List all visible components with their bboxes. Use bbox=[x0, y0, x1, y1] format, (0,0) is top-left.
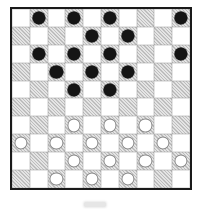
board-square-r9c3[interactable] bbox=[48, 152, 66, 170]
board-square-r6c3[interactable] bbox=[48, 98, 66, 116]
board-square-r2c3[interactable] bbox=[48, 27, 66, 45]
white-piece[interactable] bbox=[68, 119, 81, 132]
board-square-r5c10[interactable] bbox=[172, 81, 190, 99]
white-piece[interactable] bbox=[157, 137, 170, 150]
board-square-r8c1[interactable] bbox=[12, 134, 30, 152]
board-square-r7c8[interactable] bbox=[137, 116, 155, 134]
board-square-r3c2[interactable] bbox=[30, 45, 48, 63]
board-square-r3c9[interactable] bbox=[154, 45, 172, 63]
board-square-r6c5[interactable] bbox=[83, 98, 101, 116]
board-square-r9c1[interactable] bbox=[12, 152, 30, 170]
board-square-r1c2[interactable] bbox=[30, 9, 48, 27]
board-square-r3c10[interactable] bbox=[172, 45, 190, 63]
board-square-r5c2[interactable] bbox=[30, 81, 48, 99]
board-square-r2c1[interactable] bbox=[12, 27, 30, 45]
white-piece[interactable] bbox=[86, 137, 99, 150]
board-square-r3c6[interactable] bbox=[101, 45, 119, 63]
white-piece[interactable] bbox=[139, 155, 152, 168]
white-piece[interactable] bbox=[86, 172, 99, 185]
board-square-r6c8[interactable] bbox=[137, 98, 155, 116]
board-square-r2c8[interactable] bbox=[137, 27, 155, 45]
board-square-r7c3[interactable] bbox=[48, 116, 66, 134]
board-square-r3c4[interactable] bbox=[65, 45, 83, 63]
board-square-r5c1[interactable] bbox=[12, 81, 30, 99]
board-square-r4c5[interactable] bbox=[83, 63, 101, 81]
board-square-r4c10[interactable] bbox=[172, 63, 190, 81]
board-square-r6c6[interactable] bbox=[101, 98, 119, 116]
board-square-r1c5[interactable] bbox=[83, 9, 101, 27]
board-square-r6c1[interactable] bbox=[12, 98, 30, 116]
board-square-r8c2[interactable] bbox=[30, 134, 48, 152]
black-piece[interactable] bbox=[68, 11, 81, 24]
board-square-r3c1[interactable] bbox=[12, 45, 30, 63]
white-piece[interactable] bbox=[14, 137, 27, 150]
board-square-r1c8[interactable] bbox=[137, 9, 155, 27]
board-square-r7c2[interactable] bbox=[30, 116, 48, 134]
board-square-r7c9[interactable] bbox=[154, 116, 172, 134]
board-square-r5c3[interactable] bbox=[48, 81, 66, 99]
board-square-r1c9[interactable] bbox=[154, 9, 172, 27]
white-piece[interactable] bbox=[121, 172, 134, 185]
board-square-r10c6[interactable] bbox=[101, 170, 119, 188]
board-square-r5c5[interactable] bbox=[83, 81, 101, 99]
white-piece[interactable] bbox=[50, 172, 63, 185]
black-piece[interactable] bbox=[86, 65, 99, 78]
board-square-r2c4[interactable] bbox=[65, 27, 83, 45]
board-square-r7c10[interactable] bbox=[172, 116, 190, 134]
board-square-r6c2[interactable] bbox=[30, 98, 48, 116]
board-square-r3c3[interactable] bbox=[48, 45, 66, 63]
white-piece[interactable] bbox=[175, 155, 188, 168]
board-square-r2c10[interactable] bbox=[172, 27, 190, 45]
board-square-r4c2[interactable] bbox=[30, 63, 48, 81]
black-piece[interactable] bbox=[121, 65, 134, 78]
board-square-r10c1[interactable] bbox=[12, 170, 30, 188]
board-square-r1c6[interactable] bbox=[101, 9, 119, 27]
board-square-r8c8[interactable] bbox=[137, 134, 155, 152]
board-square-r6c10[interactable] bbox=[172, 98, 190, 116]
board-square-r1c10[interactable] bbox=[172, 9, 190, 27]
board-square-r5c6[interactable] bbox=[101, 81, 119, 99]
board-square-r1c1[interactable] bbox=[12, 9, 30, 27]
board-square-r4c4[interactable] bbox=[65, 63, 83, 81]
white-piece[interactable] bbox=[103, 155, 116, 168]
board-square-r9c9[interactable] bbox=[154, 152, 172, 170]
black-piece[interactable] bbox=[32, 47, 45, 60]
black-piece[interactable] bbox=[121, 29, 134, 42]
board-square-r10c10[interactable] bbox=[172, 170, 190, 188]
board-square-r10c8[interactable] bbox=[137, 170, 155, 188]
black-piece[interactable] bbox=[32, 11, 45, 24]
board-square-r9c10[interactable] bbox=[172, 152, 190, 170]
board-square-r5c4[interactable] bbox=[65, 81, 83, 99]
black-piece[interactable] bbox=[103, 83, 116, 96]
board-square-r4c1[interactable] bbox=[12, 63, 30, 81]
board-square-r3c7[interactable] bbox=[119, 45, 137, 63]
board-square-r7c7[interactable] bbox=[119, 116, 137, 134]
white-piece[interactable] bbox=[50, 137, 63, 150]
board-square-r5c7[interactable] bbox=[119, 81, 137, 99]
board-square-r8c4[interactable] bbox=[65, 134, 83, 152]
board-square-r6c7[interactable] bbox=[119, 98, 137, 116]
white-piece[interactable] bbox=[103, 119, 116, 132]
board-square-r4c8[interactable] bbox=[137, 63, 155, 81]
board-square-r1c3[interactable] bbox=[48, 9, 66, 27]
board-square-r9c5[interactable] bbox=[83, 152, 101, 170]
black-piece[interactable] bbox=[103, 11, 116, 24]
board-square-r4c3[interactable] bbox=[48, 63, 66, 81]
black-piece[interactable] bbox=[68, 83, 81, 96]
board-square-r9c4[interactable] bbox=[65, 152, 83, 170]
board-square-r7c5[interactable] bbox=[83, 116, 101, 134]
board-square-r9c8[interactable] bbox=[137, 152, 155, 170]
board-square-r9c6[interactable] bbox=[101, 152, 119, 170]
board-square-r10c3[interactable] bbox=[48, 170, 66, 188]
board-square-r2c2[interactable] bbox=[30, 27, 48, 45]
black-piece[interactable] bbox=[68, 47, 81, 60]
white-piece[interactable] bbox=[139, 119, 152, 132]
board-square-r10c7[interactable] bbox=[119, 170, 137, 188]
board-square-r8c10[interactable] bbox=[172, 134, 190, 152]
board-square-r8c9[interactable] bbox=[154, 134, 172, 152]
board-square-r5c8[interactable] bbox=[137, 81, 155, 99]
board-square-r8c6[interactable] bbox=[101, 134, 119, 152]
black-piece[interactable] bbox=[175, 47, 188, 60]
board-square-r7c4[interactable] bbox=[65, 116, 83, 134]
board-square-r8c7[interactable] bbox=[119, 134, 137, 152]
